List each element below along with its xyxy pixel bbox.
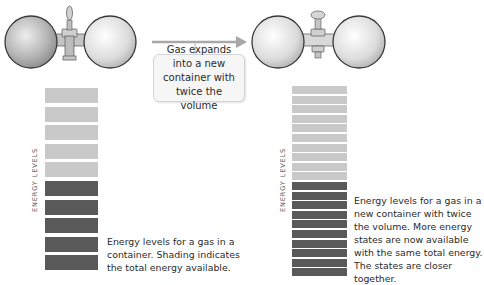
energy-level-filled	[292, 240, 347, 248]
energy-level-filled	[292, 211, 347, 219]
energy-level-empty	[292, 105, 347, 113]
energy-level-empty	[45, 88, 98, 103]
energy-level-empty	[292, 115, 347, 123]
energy-level-filled	[292, 192, 347, 200]
energy-level-filled	[45, 200, 98, 215]
energy-level-filled	[292, 230, 347, 238]
energy-level-filled	[292, 220, 347, 228]
energy-level-empty	[292, 124, 347, 132]
expansion-callout: Gas expands into a new container with tw…	[153, 54, 245, 102]
energy-level-empty	[292, 172, 347, 180]
energy-level-filled	[292, 249, 347, 257]
left-caption: Energy levels for a gas in a container. …	[107, 235, 247, 274]
right-energy-levels	[292, 86, 347, 278]
energy-level-empty	[292, 96, 347, 104]
open-valve-container-illustration	[245, 0, 395, 75]
energy-level-filled	[45, 181, 98, 196]
callout-text: Gas expands into a new container with tw…	[156, 43, 242, 113]
right-energy-axis-label: ENERGY LEVELS	[279, 148, 287, 212]
energy-level-empty	[292, 153, 347, 161]
energy-level-filled	[292, 268, 347, 276]
energy-level-empty	[292, 86, 347, 94]
left-energy-axis-label: ENERGY LEVELS	[31, 148, 39, 212]
energy-level-empty	[45, 162, 98, 177]
energy-level-empty	[45, 144, 98, 159]
energy-level-empty	[292, 163, 347, 171]
energy-level-filled	[292, 201, 347, 209]
energy-level-empty	[292, 144, 347, 152]
energy-level-filled	[292, 182, 347, 190]
energy-level-filled	[45, 237, 98, 252]
left-energy-levels	[45, 88, 98, 274]
energy-level-filled	[292, 259, 347, 267]
closed-valve-container-illustration	[0, 0, 150, 75]
energy-level-empty	[45, 125, 98, 140]
energy-level-empty	[292, 134, 347, 142]
energy-level-filled	[45, 255, 98, 270]
energy-level-filled	[45, 218, 98, 233]
right-caption: Energy levels for a gas in a new contain…	[354, 194, 484, 285]
energy-level-empty	[45, 107, 98, 122]
